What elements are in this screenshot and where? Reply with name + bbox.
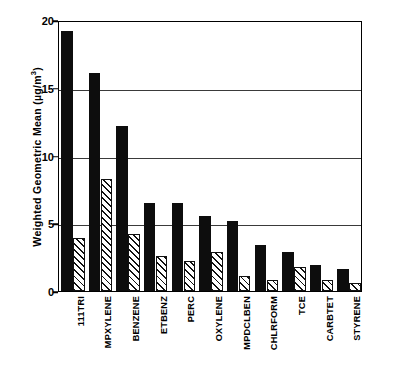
y-tick-mark-20 xyxy=(53,20,58,22)
bar-etbenz-hatched xyxy=(156,256,168,291)
y-tick-label-15: 15 xyxy=(28,83,54,94)
x-label-mpxylene: MPXYLENE xyxy=(103,296,113,348)
x-label-oxylene: OXYLENE xyxy=(214,296,224,341)
bar-tce-hatched xyxy=(294,267,306,291)
bar-group-perc xyxy=(170,22,198,291)
bar-mpdclben-hatched xyxy=(239,276,251,291)
bar-benzene-hatched xyxy=(128,234,140,291)
bar-mpxylene-solid xyxy=(89,73,101,291)
x-label-111tri: 111TRI xyxy=(76,296,86,326)
x-label-styrene: STYRENE xyxy=(352,296,362,341)
x-axis-category-labels: 111TRIMPXYLENEBENZENEETBENZPERCOXYLENEMP… xyxy=(58,292,362,366)
bar-perc-hatched xyxy=(184,261,196,291)
y-tick-label-20: 20 xyxy=(28,16,54,27)
y-tick-label-10: 10 xyxy=(28,151,54,162)
x-label-chlrform: CHLRFORM xyxy=(269,296,279,350)
bar-group-tce xyxy=(280,22,308,291)
bar-chlrform-hatched xyxy=(267,280,279,291)
y-tick-label-0: 0 xyxy=(28,287,54,298)
bar-group-mpxylene xyxy=(87,22,115,291)
bar-benzene-solid xyxy=(116,126,128,291)
y-tick-mark-5 xyxy=(53,224,58,226)
bar-styrene-solid xyxy=(337,269,349,291)
y-axis-tick-labels: 05101520 xyxy=(24,0,54,366)
bar-styrene-hatched xyxy=(349,283,361,291)
bar-tce-solid xyxy=(282,252,294,291)
bar-chlrform-solid xyxy=(255,245,267,291)
bar-mpdclben-solid xyxy=(227,221,239,291)
bar-carbtet-hatched xyxy=(322,280,334,291)
bar-chart-figure: Weighted Geometric Mean (µg/m3) 05101520… xyxy=(0,0,396,366)
bar-mpxylene-hatched xyxy=(101,179,113,291)
bar-series-container xyxy=(59,22,361,291)
bar-perc-solid xyxy=(172,203,184,291)
bar-group-etbenz xyxy=(142,22,170,291)
bar-oxylene-hatched xyxy=(211,252,223,291)
y-tick-mark-0 xyxy=(53,291,58,293)
y-tick-label-5: 5 xyxy=(28,219,54,230)
bar-group-oxylene xyxy=(197,22,225,291)
bar-group-benzene xyxy=(114,22,142,291)
bar-etbenz-solid xyxy=(144,203,156,291)
bar-group-chlrform xyxy=(252,22,280,291)
y-tick-mark-10 xyxy=(53,156,58,158)
x-label-etbenz: ETBENZ xyxy=(159,296,169,334)
x-label-benzene: BENZENE xyxy=(131,296,141,341)
x-label-tce: TCE xyxy=(297,296,307,315)
bar-oxylene-solid xyxy=(199,216,211,291)
x-label-carbtet: CARBTET xyxy=(325,296,335,341)
x-label-perc: PERC xyxy=(186,296,196,322)
bar-group-111tri xyxy=(59,22,87,291)
bar-group-styrene xyxy=(335,22,363,291)
bar-111tri-hatched xyxy=(73,238,85,291)
bar-carbtet-solid xyxy=(310,265,322,291)
x-label-mpdclben: MPDCLBEN xyxy=(242,296,252,350)
bar-group-carbtet xyxy=(308,22,336,291)
bar-111tri-solid xyxy=(61,31,73,291)
y-tick-mark-15 xyxy=(53,88,58,90)
plot-area xyxy=(58,21,362,292)
bar-group-mpdclben xyxy=(225,22,253,291)
